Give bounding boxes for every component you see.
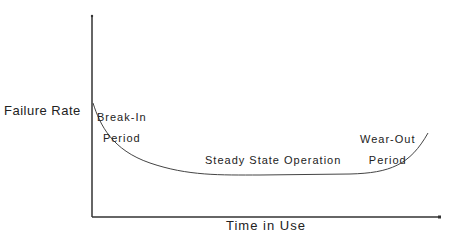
break-in-line1: Break-In — [97, 107, 147, 128]
break-in-line2: Period — [97, 128, 147, 149]
steady-state-label: Steady State Operation — [205, 150, 341, 171]
bathtub-plot — [0, 0, 456, 239]
wear-out-line1: Wear-Out — [360, 129, 415, 150]
y-axis-label: Failure Rate — [4, 103, 81, 118]
wear-out-label: Wear-Out Period — [360, 129, 415, 171]
break-in-label: Break-In Period — [97, 107, 147, 149]
y-axis-arrow-tip — [91, 15, 93, 17]
wear-out-line2: Period — [360, 150, 415, 171]
x-axis-end-tick — [438, 216, 441, 219]
x-axis-label: Time in Use — [226, 218, 306, 233]
